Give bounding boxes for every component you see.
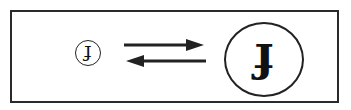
small-sphere-symbol: f xyxy=(84,43,91,63)
small-sphere-node: f xyxy=(75,40,101,66)
large-sphere-symbol: f xyxy=(254,37,274,83)
equilibrium-arrows-icon xyxy=(120,38,210,70)
large-sphere-node: f xyxy=(224,22,304,97)
reverse-arrow-icon xyxy=(126,55,206,67)
forward-arrow-icon xyxy=(124,39,204,51)
